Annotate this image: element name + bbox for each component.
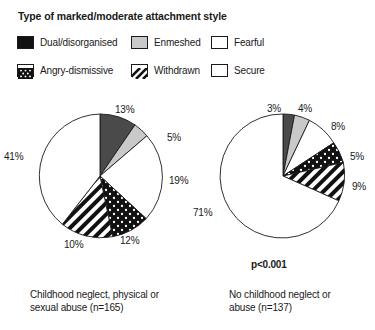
pie-right-label-secure: 71% xyxy=(193,207,212,218)
swatch-fearful-icon xyxy=(211,36,228,49)
pie-chart-left: 13% 5% 19% 12% 10% 41% xyxy=(36,112,164,240)
legend-label: Secure xyxy=(234,65,265,76)
pie-right-label-dual-disorganised: 3% xyxy=(267,103,281,114)
legend-label: Enmeshed xyxy=(154,37,201,48)
legend-label: Angry-dismissive xyxy=(40,65,113,76)
swatch-secure-icon xyxy=(211,64,228,77)
pie-right-label-enmeshed: 4% xyxy=(298,103,312,114)
legend-label: Fearful xyxy=(234,37,264,48)
figure: Type of marked/moderate attachment style… xyxy=(0,0,375,330)
pie-left-slices xyxy=(39,114,162,238)
legend-item-fearful: Fearful xyxy=(211,36,264,49)
swatch-withdrawn-icon xyxy=(131,64,148,77)
swatch-dual-disorganised-icon xyxy=(17,36,34,49)
swatch-enmeshed-icon xyxy=(131,36,148,49)
pie-right-label-fearful: 8% xyxy=(331,121,345,132)
legend-row: Dual/disorganised Enmeshed Fearful xyxy=(17,31,272,53)
pie-right-label-angry-dismissive: 5% xyxy=(350,151,364,162)
legend: Dual/disorganised Enmeshed Fearful xyxy=(17,31,272,81)
p-value-annotation: p<0.001 xyxy=(251,259,287,270)
pie-chart-right: 3% 4% 8% 5% 9% 71% xyxy=(219,112,347,240)
swatch-angry-dismissive-icon xyxy=(17,64,34,77)
legend-row: Angry-dismissive Withdrawn xyxy=(17,59,272,81)
legend-label: Withdrawn xyxy=(154,65,200,76)
legend-item-withdrawn: Withdrawn xyxy=(131,64,211,77)
pie-left-label-secure: 41% xyxy=(4,151,23,162)
caption-left: Childhood neglect, physical or sexual ab… xyxy=(30,288,159,314)
caption-right: No childhood neglect or abuse (n=137) xyxy=(229,288,331,314)
legend-item-dual-disorganised: Dual/disorganised xyxy=(17,36,131,49)
legend-title: Type of marked/moderate attachment style xyxy=(18,10,227,22)
pie-left-label-dual-disorganised: 13% xyxy=(115,104,134,115)
pie-left-label-withdrawn: 10% xyxy=(64,239,83,250)
pie-left-label-fearful: 19% xyxy=(169,175,188,186)
legend-label: Dual/disorganised xyxy=(40,37,118,48)
pie-right-label-withdrawn: 9% xyxy=(352,181,366,192)
pie-left-svg xyxy=(36,112,164,240)
pie-left-label-enmeshed: 5% xyxy=(167,132,181,143)
legend-item-angry-dismissive: Angry-dismissive xyxy=(17,64,131,77)
pie-right-svg xyxy=(219,112,347,240)
pie-right-slices xyxy=(220,114,345,238)
pie-left-label-angry-dismissive: 12% xyxy=(120,235,139,246)
legend-item-enmeshed: Enmeshed xyxy=(131,36,211,49)
legend-item-secure: Secure xyxy=(211,64,265,77)
